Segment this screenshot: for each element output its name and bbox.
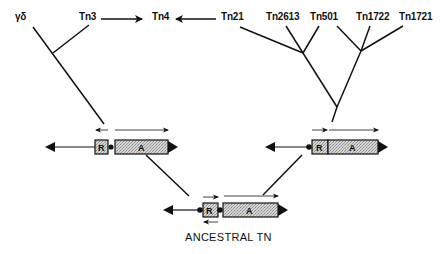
taxon-label-tn1722: Tn1722 (356, 11, 389, 22)
right-end-triangle-icon (378, 141, 388, 153)
r-gene-label: R (206, 206, 213, 216)
taxon-label-tn1721: Tn1721 (399, 11, 432, 22)
right-tree (240, 26, 403, 122)
taxon-label-tn21: Tn21 (221, 11, 244, 22)
branch-right-to-ancestral (263, 155, 302, 195)
r-gene-label: R (98, 143, 105, 153)
right-transposon-structure: R A (265, 130, 388, 154)
left-end-arrowhead-icon (45, 142, 55, 152)
taxon-label-tn2613: Tn2613 (266, 11, 299, 22)
junction-dot-icon (108, 144, 113, 149)
right-end-triangle-icon (278, 204, 288, 216)
right-end-triangle-icon (168, 141, 178, 153)
r-gene-label: R (316, 143, 323, 153)
ancestral-transposon-structure: R A (163, 196, 288, 222)
a-gene-label: A (349, 143, 356, 153)
left-end-arrowhead-icon (265, 142, 275, 152)
a-gene-label: A (246, 206, 253, 216)
left-transposon-structure: R A (45, 130, 178, 154)
junction-dot-icon (197, 207, 203, 213)
taxon-label-tn3: Tn3 (79, 11, 96, 22)
left-tree (33, 25, 104, 124)
taxon-label-tn501: Tn501 (310, 11, 338, 22)
branch-left-to-ancestral (146, 155, 189, 196)
taxon-label-gamma-delta: γδ (15, 11, 26, 22)
transposon-phylogeny-diagram: R A R A R A (0, 0, 444, 254)
taxon-label-tn4: Tn4 (152, 11, 169, 22)
junction-dot-icon (306, 144, 312, 150)
a-gene-label: A (138, 143, 145, 153)
junction-dot-icon (217, 207, 223, 213)
ancestral-tn-caption: ANCESTRAL TN (185, 231, 272, 243)
left-end-arrowhead-icon (163, 205, 173, 215)
